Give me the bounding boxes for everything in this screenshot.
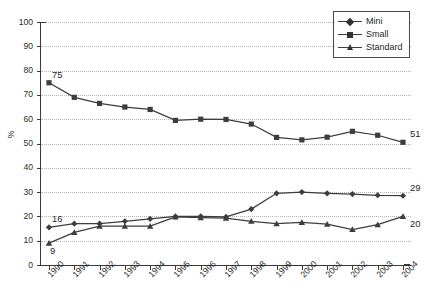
legend-item-small[interactable]: Small xyxy=(338,28,403,41)
data-point-marker xyxy=(97,101,102,106)
data-point-marker xyxy=(299,137,304,142)
data-point-marker xyxy=(148,107,153,112)
legend-item-label: Small xyxy=(362,29,389,40)
x-axis-end-tick xyxy=(404,264,410,265)
data-point-marker xyxy=(147,216,153,222)
data-point-marker xyxy=(46,80,51,85)
data-point-marker xyxy=(299,189,305,195)
data-point-marker xyxy=(350,129,355,134)
legend-marker xyxy=(345,17,353,25)
data-point-marker xyxy=(173,118,178,123)
data-point-marker xyxy=(400,213,406,219)
legend-item-mini[interactable]: Mini xyxy=(338,15,403,28)
legend-item-label: Mini xyxy=(362,16,383,27)
data-point-marker xyxy=(274,135,279,140)
series-layer xyxy=(41,22,411,265)
y-axis-top-tick xyxy=(40,22,46,23)
y-tick-mark xyxy=(37,265,41,266)
data-label: 20 xyxy=(410,219,420,229)
y-tick-label: 90 xyxy=(7,42,33,51)
data-point-marker xyxy=(375,192,381,198)
data-point-marker xyxy=(122,104,127,109)
data-point-marker xyxy=(248,206,254,212)
y-tick-label: 30 xyxy=(7,188,33,197)
data-point-marker xyxy=(349,191,355,197)
y-tick-label: 60 xyxy=(7,115,33,124)
data-label: 51 xyxy=(410,129,420,139)
data-label: 9 xyxy=(50,246,55,256)
data-point-marker xyxy=(325,135,330,140)
data-point-marker xyxy=(46,224,52,230)
data-label: 29 xyxy=(410,183,420,193)
y-tick-label: 10 xyxy=(7,236,33,245)
chart-legend: MiniSmallStandard xyxy=(333,11,410,58)
data-point-marker xyxy=(223,117,228,122)
y-tick-label: 80 xyxy=(7,66,33,75)
legend-marker xyxy=(347,32,353,38)
y-tick-label: 20 xyxy=(7,212,33,221)
legend-marker xyxy=(347,44,353,50)
y-tick-label: 100 xyxy=(7,18,33,27)
legend-item-label: Standard xyxy=(362,42,403,53)
series-standard xyxy=(46,213,406,246)
plot-area: 0102030405060708090100 19901991199219931… xyxy=(40,22,411,266)
data-point-marker xyxy=(72,95,77,100)
data-point-marker xyxy=(249,121,254,126)
square-marker-icon xyxy=(338,29,362,40)
diamond-marker-icon xyxy=(338,16,362,27)
data-point-marker xyxy=(198,117,203,122)
y-tick-label: 50 xyxy=(7,139,33,148)
data-point-marker xyxy=(273,190,279,196)
data-label: 16 xyxy=(52,214,62,224)
line-chart: % 0102030405060708090100 199019911992199… xyxy=(0,0,428,297)
y-axis-label: % xyxy=(7,131,16,139)
y-tick-label: 40 xyxy=(7,163,33,172)
data-label: 75 xyxy=(52,70,62,80)
series-small xyxy=(46,80,405,145)
data-point-marker xyxy=(400,140,405,145)
triangle-marker-icon xyxy=(338,42,362,53)
y-tick-label: 0 xyxy=(7,261,33,270)
data-point-marker xyxy=(71,221,77,227)
series-line xyxy=(49,192,403,227)
data-point-marker xyxy=(324,190,330,196)
data-point-marker xyxy=(375,133,380,138)
legend-item-standard[interactable]: Standard xyxy=(338,41,403,54)
data-point-marker xyxy=(400,193,406,199)
y-tick-label: 70 xyxy=(7,90,33,99)
